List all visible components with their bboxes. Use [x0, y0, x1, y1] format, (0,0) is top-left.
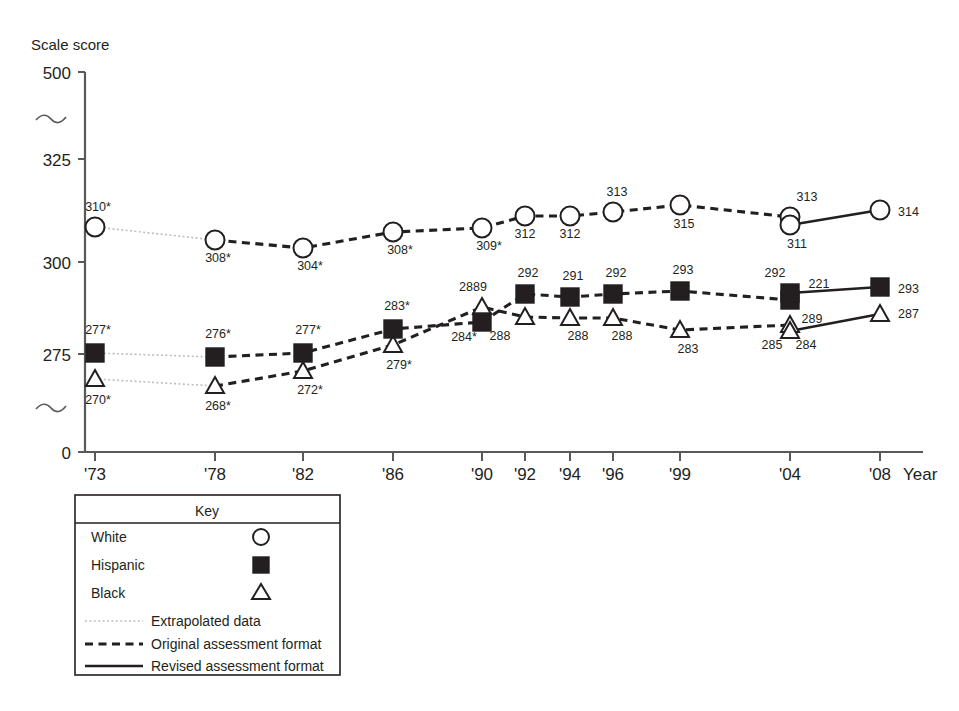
white-marker-86: [384, 223, 403, 242]
key-item-label-white: White: [91, 529, 127, 545]
black-label-73: 270*: [85, 393, 111, 407]
x-tick-label-86: '86: [382, 465, 404, 484]
white-label-08: 314: [898, 205, 919, 219]
hispanic-marker-82: [294, 344, 312, 362]
x-tick-label-78: '78: [204, 465, 226, 484]
hispanic-label-92: 292: [518, 266, 539, 280]
axis-break-lower-icon: [36, 404, 66, 411]
x-tick-label-08: '08: [869, 465, 891, 484]
hispanic-marker-94: [561, 288, 579, 306]
y-axis-ticks: 500 325 300 275 0: [43, 64, 85, 463]
hispanic-label-86: 283*: [384, 299, 410, 313]
white-label-94: 312: [560, 227, 581, 241]
hispanic-label-94: 291: [563, 269, 584, 283]
black-label-86: 279*: [386, 358, 412, 372]
hispanic-marker-04-revised: [781, 284, 799, 302]
hispanic-label-04-original: 292: [765, 266, 786, 280]
axis-break-upper-icon: [36, 115, 66, 122]
hispanic-marker-86: [384, 320, 402, 338]
white-marker-99: [671, 196, 690, 215]
black-label-82: 272*: [297, 383, 323, 397]
open-circle-icon: [253, 529, 269, 545]
scale-score-line-chart: Scale score 500 325 300 275 0: [0, 0, 959, 711]
series-hispanic: 277* 276* 277* 283* 284* 292 291 292 293…: [85, 263, 919, 366]
black-label-99: 283: [678, 342, 699, 356]
white-label-99: 315: [674, 217, 695, 231]
white-revised-segment: [790, 210, 880, 225]
white-label-04-original: 311: [787, 237, 807, 251]
hispanic-label-90: 284*: [451, 330, 477, 344]
hispanic-label-73: 277*: [85, 323, 111, 337]
hispanic-label-04-revised: 221: [809, 277, 830, 291]
hispanic-label-96: 292: [606, 266, 627, 280]
white-marker-92: [516, 207, 535, 226]
hispanic-marker-78: [206, 348, 224, 366]
series-white: 310* 308* 304* 308* 309* 312 312 313 315…: [85, 185, 919, 273]
black-extrapolated-segment: [95, 379, 215, 386]
hispanic-label-82: 277*: [295, 323, 321, 337]
y-tick-label-500: 500: [43, 64, 71, 83]
white-extrapolated-segment: [95, 227, 215, 240]
x-tick-label-73: '73: [84, 465, 106, 484]
key-item-label-hispanic: Hispanic: [91, 557, 145, 573]
white-marker-94: [561, 207, 580, 226]
black-label-08: 287: [898, 307, 919, 321]
key-line-label-extrapolated: Extrapolated data: [151, 613, 261, 629]
black-label-94: 288: [568, 329, 589, 343]
white-marker-90: [473, 219, 492, 238]
key-title: Key: [195, 503, 219, 519]
white-label-78: 308*: [205, 251, 231, 265]
black-label-92: 288: [490, 329, 511, 343]
white-marker-82: [294, 239, 313, 258]
key-line-label-original: Original assessment format: [151, 636, 322, 652]
filled-square-icon: [253, 557, 269, 573]
black-marker-90: [473, 298, 491, 314]
black-label-04-revised: 289: [802, 312, 823, 326]
hispanic-label-08: 293: [898, 282, 919, 296]
white-label-82: 304*: [297, 259, 323, 273]
white-marker-08: [871, 201, 890, 220]
hispanic-marker-99: [671, 282, 689, 300]
x-tick-label-99: '99: [669, 465, 691, 484]
white-label-04-revised: 313: [797, 190, 818, 204]
white-label-90: 309*: [476, 239, 502, 253]
x-tick-label-04: '04: [779, 465, 801, 484]
chart-page: Scale score 500 325 300 275 0: [0, 0, 959, 711]
white-label-73: 310*: [85, 200, 111, 214]
white-marker-96: [604, 203, 623, 222]
hispanic-label-78: 276*: [205, 327, 231, 341]
y-tick-label-300: 300: [43, 254, 71, 273]
white-marker-73: [86, 218, 105, 237]
key-item-label-black: Black: [91, 585, 126, 601]
hispanic-revised-segment: [790, 287, 880, 293]
white-label-96: 313: [607, 185, 628, 199]
black-label-90: 2889: [459, 280, 487, 294]
x-tick-label-90: '90: [471, 465, 493, 484]
y-axis-title: Scale score: [31, 36, 109, 53]
hispanic-extrapolated-segment: [95, 353, 215, 357]
y-tick-label-275: 275: [43, 346, 71, 365]
black-marker-73: [86, 370, 104, 386]
hispanic-marker-73: [86, 344, 104, 362]
hispanic-marker-90: [473, 313, 491, 331]
black-label-04-revised-value: 284: [796, 338, 817, 352]
y-tick-label-325: 325: [43, 151, 71, 170]
x-tick-label-96: '96: [602, 465, 624, 484]
white-label-92: 312: [515, 227, 536, 241]
hispanic-marker-96: [604, 285, 622, 303]
black-label-96: 288: [612, 329, 633, 343]
hispanic-marker-08: [871, 278, 889, 296]
black-label-04-original: 285: [762, 338, 783, 352]
black-label-78: 268*: [205, 399, 231, 413]
black-marker-94: [561, 309, 579, 325]
key-legend: Key White Hispanic Black Extrapolated da…: [75, 495, 340, 675]
y-tick-label-0: 0: [62, 444, 71, 463]
white-marker-78: [206, 231, 225, 250]
key-line-label-revised: Revised assessment format: [151, 658, 324, 674]
white-label-86: 308*: [387, 243, 413, 257]
black-marker-08: [871, 305, 889, 321]
hispanic-label-99: 293: [673, 263, 694, 277]
hispanic-marker-92: [516, 285, 534, 303]
x-tick-label-82: '82: [292, 465, 314, 484]
x-axis-title: Year: [903, 465, 938, 484]
